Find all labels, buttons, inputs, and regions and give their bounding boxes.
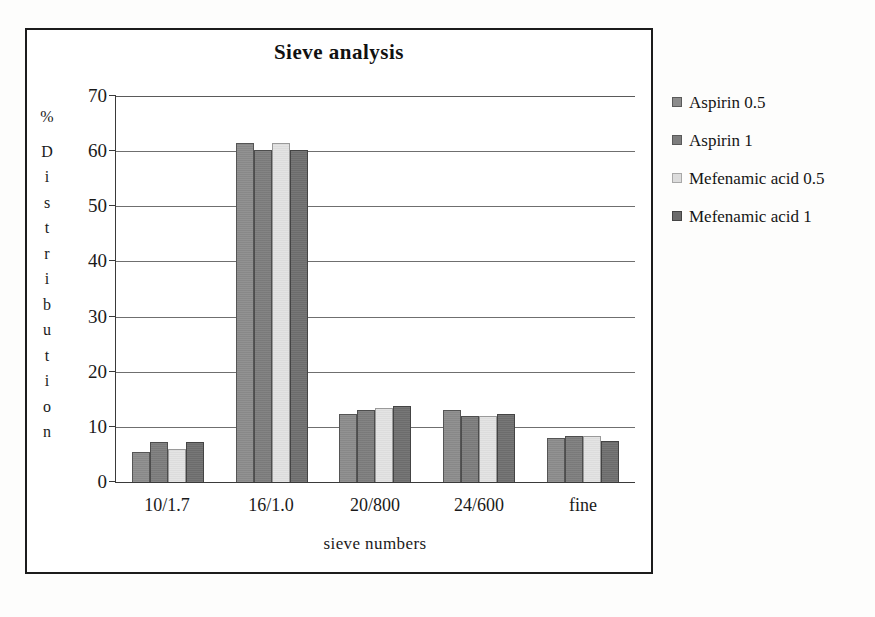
bar [461, 416, 479, 482]
legend-item[interactable]: Aspirin 1 [672, 130, 857, 151]
legend-item[interactable]: Aspirin 0.5 [672, 92, 857, 113]
y-axis-title-char: i [30, 368, 64, 394]
chart-title: Sieve analysis [25, 40, 653, 65]
bar [186, 442, 204, 482]
legend-swatch-icon [672, 97, 682, 107]
x-axis-tick-label: fine [531, 495, 635, 516]
legend-swatch-icon [672, 135, 682, 145]
bar [393, 406, 411, 482]
bar [236, 143, 254, 482]
legend-swatch-icon [672, 173, 682, 183]
bar-group [531, 96, 635, 482]
y-axis-tickmark [109, 205, 116, 206]
x-axis-tick-label: 16/1.0 [219, 495, 323, 516]
x-axis-title: sieve numbers [115, 534, 635, 554]
bar [443, 410, 461, 482]
bar [565, 436, 583, 482]
scanned-page: Sieve analysis %Distribution 01020304050… [0, 0, 875, 617]
bar [339, 414, 357, 482]
y-axis-title-char: % [30, 104, 64, 130]
y-axis-tick-label: 50 [88, 195, 107, 217]
legend-label: Aspirin 0.5 [689, 92, 766, 113]
y-axis-tick-label: 0 [98, 471, 108, 493]
bar [547, 438, 565, 482]
y-axis-tick-label: 60 [88, 140, 107, 162]
plot-area: 010203040506070 [115, 96, 635, 483]
y-axis-title-char: n [30, 419, 64, 445]
y-axis-title-char: u [30, 317, 64, 343]
y-axis-title-char: t [30, 215, 64, 241]
y-axis-tickmark [109, 260, 116, 261]
y-axis-title: %Distribution [30, 104, 64, 445]
legend-item[interactable]: Mefenamic acid 1 [672, 206, 857, 227]
y-axis-title-char: o [30, 394, 64, 420]
bar [375, 408, 393, 482]
bar [479, 416, 497, 482]
legend-item[interactable]: Mefenamic acid 0.5 [672, 168, 857, 189]
y-axis-title-char: b [30, 292, 64, 318]
y-axis-tickmark [109, 481, 116, 482]
bar-group [324, 96, 428, 482]
y-axis-tickmark [109, 426, 116, 427]
y-axis-title-spacer [30, 130, 64, 139]
y-axis-tick-label: 30 [88, 305, 107, 327]
bar [132, 452, 150, 482]
bar [168, 449, 186, 482]
legend-label: Mefenamic acid 0.5 [689, 168, 824, 189]
x-axis-tick-labels: 10/1.716/1.020/80024/600fine [115, 495, 635, 516]
y-axis-title-char: t [30, 343, 64, 369]
legend: Aspirin 0.5Aspirin 1Mefenamic acid 0.5Me… [672, 92, 857, 244]
bar [497, 414, 515, 482]
y-axis-tickmark [109, 316, 116, 317]
y-axis-tickmark [109, 150, 116, 151]
y-axis-tick-label: 70 [88, 85, 107, 107]
bar-group [220, 96, 324, 482]
y-axis-title-char: i [30, 164, 64, 190]
y-axis-tick-label: 10 [88, 415, 107, 437]
y-axis-title-char: i [30, 266, 64, 292]
bar [272, 143, 290, 482]
y-axis-title-char: r [30, 241, 64, 267]
legend-label: Aspirin 1 [689, 130, 753, 151]
y-axis-title-char: s [30, 190, 64, 216]
y-axis-title-char: D [30, 139, 64, 165]
bar [601, 441, 619, 482]
legend-swatch-icon [672, 211, 682, 221]
bar [583, 436, 601, 482]
y-axis-tickmark [109, 371, 116, 372]
bar [290, 150, 308, 483]
bar-groups [116, 96, 635, 482]
y-axis-tick-label: 20 [88, 360, 107, 382]
legend-label: Mefenamic acid 1 [689, 206, 812, 227]
y-axis-tick-label: 40 [88, 250, 107, 272]
bar-group [427, 96, 531, 482]
bar [254, 150, 272, 483]
x-axis-tick-label: 24/600 [427, 495, 531, 516]
bar [150, 442, 168, 482]
bar-group [116, 96, 220, 482]
x-axis-tick-label: 10/1.7 [115, 495, 219, 516]
bar [357, 410, 375, 482]
y-axis-tickmark [109, 95, 116, 96]
x-axis-tick-label: 20/800 [323, 495, 427, 516]
